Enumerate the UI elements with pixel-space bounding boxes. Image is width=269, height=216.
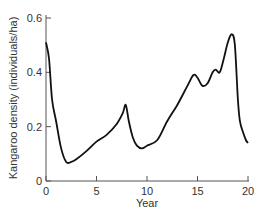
y-tick-label: 0 xyxy=(36,175,42,187)
line-chart: 00.20.40.6 05101520 Year Kangaroo densit… xyxy=(0,0,269,216)
x-axis-label: Year xyxy=(136,197,159,209)
x-tick-label: 20 xyxy=(242,185,254,197)
y-tick-label: 0.6 xyxy=(27,12,42,24)
x-tick-label: 10 xyxy=(141,185,153,197)
y-axis-label: Kangaroo density (individuals/ha) xyxy=(7,17,19,180)
x-ticks: 05101520 xyxy=(43,176,254,197)
x-tick-label: 0 xyxy=(43,185,49,197)
y-tick-label: 0.2 xyxy=(27,121,42,133)
y-tick-label: 0.4 xyxy=(27,66,42,78)
x-tick-label: 5 xyxy=(93,185,99,197)
x-tick-label: 15 xyxy=(191,185,203,197)
y-ticks: 00.20.40.6 xyxy=(27,12,51,187)
density-line xyxy=(46,34,248,163)
